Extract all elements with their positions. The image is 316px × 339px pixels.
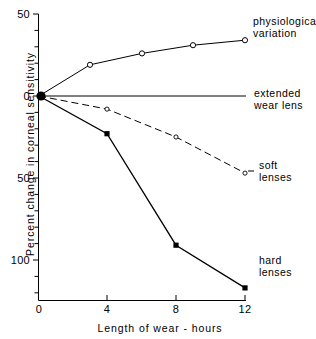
series-label-physiological-variation-line1: physiological [253,15,316,27]
y-tick-label-50-top: 50 [4,8,30,20]
series-label-hard-lenses-line2: lenses [259,267,292,279]
x-tick-label-8: 8 [164,303,188,315]
series-label-hard-lenses-line1: hard [259,254,282,266]
series-line-physiological-variation [39,40,245,96]
series-markers-hard-lenses [104,131,247,290]
series-line-soft-lenses [39,96,245,173]
series-label-soft-lenses-line1: soft [259,159,278,171]
x-tick-label-0: 0 [27,303,51,315]
series-label-extended-wear-lens-line1: extended [254,87,301,99]
series-label-soft-lenses: soft lenses [259,160,292,183]
series-label-physiological-variation: physiological variation [253,16,316,39]
y-axis-title: Percent change in corneal sensitivity [24,39,36,269]
x-tick-label-12: 12 [233,303,257,315]
series-label-extended-wear-lens-line2: wear lens [254,100,303,112]
x-axis-ticks [39,295,246,301]
origin-marker [36,91,45,100]
series-label-soft-lenses-line2: lenses [259,172,292,184]
x-axis-title: Length of wear - hours [60,322,260,334]
series-line-hard-lenses [39,96,245,288]
x-tick-label-4: 4 [95,303,119,315]
series-label-extended-wear-lens: extended wear lens [254,88,303,111]
chart-figure: 50 0 50 100 0 4 8 12 physiological varia… [0,0,316,339]
series-label-physiological-variation-line2: variation [253,28,316,40]
series-label-hard-lenses: hard lenses [259,255,292,278]
